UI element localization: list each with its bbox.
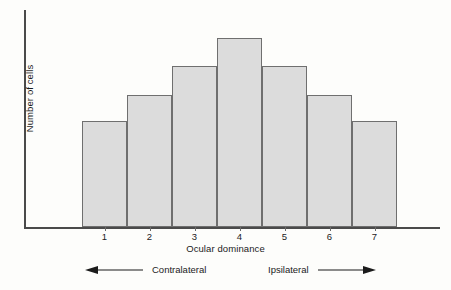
- bar-5: [262, 66, 307, 227]
- ipsilateral-annotation: Ipsilateral: [268, 262, 376, 278]
- x-tick-label-5: 5: [275, 231, 295, 242]
- bar-2: [127, 95, 172, 227]
- arrow-left-icon: [85, 265, 143, 275]
- ipsilateral-label: Ipsilateral: [268, 265, 309, 275]
- x-tick-label-6: 6: [320, 231, 340, 242]
- arrow-right-icon: [318, 265, 376, 275]
- x-axis-title: Ocular dominance: [0, 243, 451, 254]
- bar-1: [82, 121, 127, 227]
- contralateral-annotation: Contralateral: [85, 262, 206, 278]
- x-tick-label-2: 2: [140, 231, 160, 242]
- x-tick-label-4: 4: [230, 231, 250, 242]
- x-tick-label-1: 1: [95, 231, 115, 242]
- bar-4: [217, 38, 262, 227]
- bar-6: [307, 95, 352, 227]
- x-tick-label-3: 3: [185, 231, 205, 242]
- ocular-dominance-histogram-figure: Number of cells 1234567 Ocular dominance…: [0, 0, 451, 290]
- bar-7: [352, 121, 397, 227]
- contralateral-label: Contralateral: [152, 265, 206, 275]
- laterality-annotation-row: Contralateral Ipsilateral: [0, 262, 451, 280]
- x-tick-label-7: 7: [365, 231, 385, 242]
- bar-3: [172, 66, 217, 227]
